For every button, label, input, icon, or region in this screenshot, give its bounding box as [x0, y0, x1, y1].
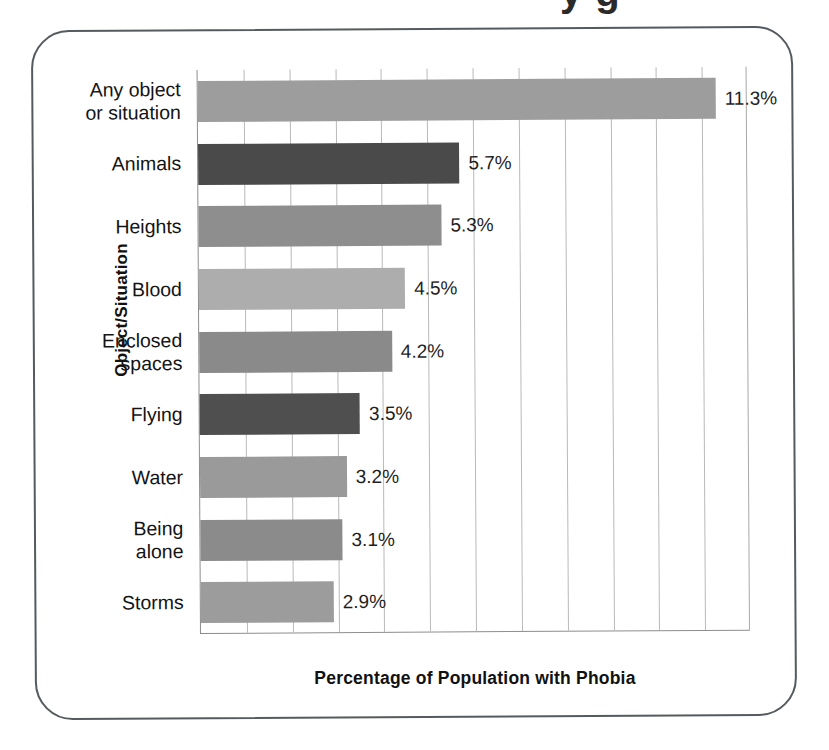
- category-label: Blood: [132, 258, 182, 321]
- category-label: Storms: [122, 571, 184, 634]
- bar-value-label: 3.1%: [342, 518, 395, 559]
- bar-row: 2.9%: [201, 568, 750, 634]
- category-axis-labels: Any object or situationAnimalsHeightsBlo…: [17, 70, 192, 635]
- bar: [198, 205, 441, 247]
- category-label: Flying: [130, 383, 182, 446]
- bar-row: 3.1%: [200, 505, 749, 571]
- bar-series: 11.3%5.7%5.3%4.5%4.2%3.5%3.2%3.1%2.9%: [198, 67, 750, 633]
- bar: [199, 268, 405, 310]
- bar: [199, 330, 392, 372]
- bar-value-label: 5.7%: [459, 142, 512, 183]
- bar-value-label: 3.5%: [360, 393, 413, 434]
- bar-value-label: 11.3%: [716, 77, 778, 118]
- bar: [198, 142, 459, 185]
- bar-value-label: 3.2%: [347, 456, 400, 497]
- bar-value-label: 4.5%: [405, 267, 458, 308]
- category-label: Animals: [112, 133, 182, 196]
- x-axis-title: Percentage of Population with Phobia: [200, 668, 750, 689]
- category-label: Being alone: [133, 509, 183, 572]
- bar-row: 5.7%: [198, 129, 747, 195]
- bar-row: 11.3%: [198, 67, 747, 133]
- bar: [200, 456, 347, 498]
- bar-row: 5.3%: [198, 192, 747, 258]
- category-label: Any object or situation: [85, 70, 181, 133]
- bar-value-label: 5.3%: [441, 205, 494, 246]
- bar: [200, 393, 361, 435]
- bar-row: 4.5%: [199, 255, 748, 321]
- bar-row: 3.5%: [199, 380, 748, 446]
- category-label: Heights: [115, 195, 182, 258]
- plot-area: 11.3%5.7%5.3%4.5%4.2%3.5%3.2%3.1%2.9%: [197, 67, 750, 634]
- category-label: Water: [132, 446, 184, 509]
- bar-value-label: 4.2%: [392, 330, 445, 371]
- chart-figure: Object/Situation Any object or situation…: [0, 0, 829, 750]
- bar: [200, 519, 342, 561]
- bar-value-label: 2.9%: [334, 581, 387, 622]
- bar: [201, 582, 334, 624]
- bar: [198, 78, 716, 122]
- bar-row: 4.2%: [199, 317, 748, 383]
- bar-row: 3.2%: [200, 443, 749, 509]
- category-label: Enclosed spaces: [102, 321, 183, 384]
